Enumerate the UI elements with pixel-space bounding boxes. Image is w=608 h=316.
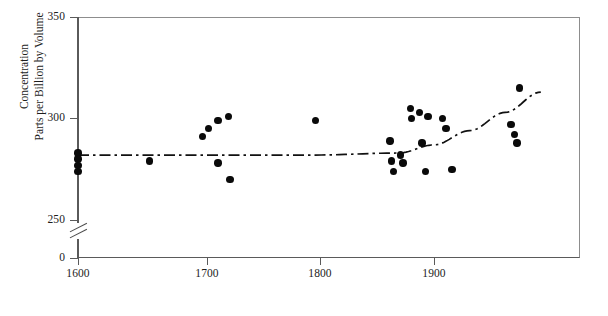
x-tick-label-1800: 1800: [290, 268, 350, 280]
y-tick-250: [70, 220, 77, 221]
data-point: [442, 125, 449, 132]
data-point: [418, 139, 425, 146]
data-point: [448, 166, 455, 173]
data-point: [513, 139, 520, 146]
y-axis-title-line1: Concentration: [17, 0, 32, 165]
plot-area: [78, 17, 580, 258]
data-point: [74, 168, 81, 175]
data-point: [214, 117, 221, 124]
axis-break-icon: [69, 221, 89, 241]
data-point: [507, 121, 514, 128]
data-point: [146, 157, 153, 164]
data-point: [516, 84, 523, 91]
x-tick-1800: [320, 258, 321, 265]
x-tick-label-1600: 1600: [48, 268, 108, 280]
x-tick-1700: [207, 258, 208, 265]
data-point: [226, 176, 233, 183]
x-tick-1900: [434, 258, 435, 265]
y-tick-350: [70, 17, 77, 18]
x-tick-label-1900: 1900: [404, 268, 464, 280]
y-tick-label-250: 250: [25, 214, 65, 226]
y-tick-300: [70, 118, 77, 119]
x-tick-label-1700: 1700: [177, 268, 237, 280]
data-point: [214, 159, 221, 166]
data-point: [399, 159, 406, 166]
y-tick-label-0: 0: [25, 252, 65, 264]
chart-figure: 350 300 250 0 1600 1700 1800 1900 Concen…: [0, 0, 608, 316]
x-tick-1600: [78, 258, 79, 265]
y-axis-spine-upper: [77, 17, 79, 223]
data-point: [424, 113, 431, 120]
data-point: [407, 105, 414, 112]
y-axis-spine-lower: [77, 239, 79, 259]
data-point: [386, 137, 393, 144]
y-axis-title: Concentration Parts per Billion by Volum…: [17, 0, 46, 165]
data-point: [388, 157, 395, 164]
y-tick-0: [70, 258, 77, 259]
y-axis-title-line2: Parts per Billion by Volume: [31, 0, 46, 165]
